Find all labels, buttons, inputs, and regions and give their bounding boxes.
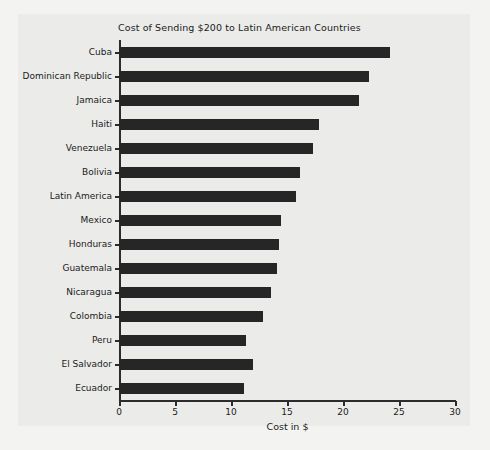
- bar-row: Guatemala: [119, 256, 455, 280]
- y-axis-tick-label: Colombia: [70, 310, 112, 322]
- x-axis-tick: [287, 401, 289, 406]
- x-axis-tick: [399, 401, 401, 406]
- x-axis-tick-label: 30: [449, 407, 460, 417]
- bar: [119, 311, 263, 322]
- y-axis-tick-label: Ecuador: [75, 382, 112, 394]
- x-axis-tick-label: 0: [116, 407, 122, 417]
- bar: [119, 287, 271, 298]
- y-axis-tick-label: Honduras: [69, 238, 112, 250]
- bar-row: Bolivia: [119, 160, 455, 184]
- bar-row: Peru: [119, 328, 455, 352]
- bar-row: Dominican Republic: [119, 64, 455, 88]
- bar-row: Latin America: [119, 184, 455, 208]
- bar: [119, 95, 359, 106]
- chart-title: Cost of Sending $200 to Latin American C…: [118, 22, 361, 33]
- bar: [119, 167, 300, 178]
- x-axis-tick: [455, 401, 457, 406]
- bar-row: Nicaragua: [119, 280, 455, 304]
- x-axis-tick-label: 20: [337, 407, 348, 417]
- bar: [119, 119, 319, 130]
- bar: [119, 71, 369, 82]
- y-axis-tick-label: Nicaragua: [66, 286, 112, 298]
- bar: [119, 143, 313, 154]
- x-axis-tick: [231, 401, 233, 406]
- y-axis-tick-label: Haiti: [91, 118, 112, 130]
- y-axis-tick-label: El Salvador: [61, 358, 112, 370]
- bar-row: El Salvador: [119, 352, 455, 376]
- y-axis-tick-label: Jamaica: [77, 94, 112, 106]
- x-axis-tick: [119, 401, 121, 406]
- x-axis-tick-label: 5: [172, 407, 178, 417]
- chart-figure: Cost of Sending $200 to Latin American C…: [0, 0, 490, 450]
- y-axis-tick-label: Venezuela: [66, 142, 112, 154]
- bar: [119, 47, 390, 58]
- bar: [119, 191, 296, 202]
- y-axis-tick-label: Guatemala: [62, 262, 112, 274]
- y-axis-tick-label: Cuba: [89, 46, 112, 58]
- x-axis-tick-label: 10: [225, 407, 236, 417]
- bar-row: Honduras: [119, 232, 455, 256]
- y-axis-tick-label: Peru: [92, 334, 112, 346]
- y-axis-tick-label: Mexico: [81, 214, 112, 226]
- bar: [119, 215, 281, 226]
- x-axis-title: Cost in $: [119, 421, 456, 432]
- bar-row: Colombia: [119, 304, 455, 328]
- bar-row: Ecuador: [119, 376, 455, 400]
- x-axis-tick: [343, 401, 345, 406]
- bar-row: Mexico: [119, 208, 455, 232]
- bar-row: Cuba: [119, 40, 455, 64]
- x-axis-tick: [175, 401, 177, 406]
- bar: [119, 383, 244, 394]
- bar-row: Jamaica: [119, 88, 455, 112]
- y-axis-tick-label: Latin America: [50, 190, 112, 202]
- x-axis-tick-label: 15: [281, 407, 292, 417]
- y-axis-tick-label: Dominican Republic: [23, 70, 112, 82]
- bar: [119, 335, 246, 346]
- plot-area: CubaDominican RepublicJamaicaHaitiVenezu…: [119, 40, 455, 400]
- bar: [119, 263, 277, 274]
- y-axis-tick-label: Bolivia: [82, 166, 112, 178]
- bar-row: Venezuela: [119, 136, 455, 160]
- bar: [119, 359, 253, 370]
- x-axis-tick-label: 25: [393, 407, 404, 417]
- bar-row: Haiti: [119, 112, 455, 136]
- bar: [119, 239, 279, 250]
